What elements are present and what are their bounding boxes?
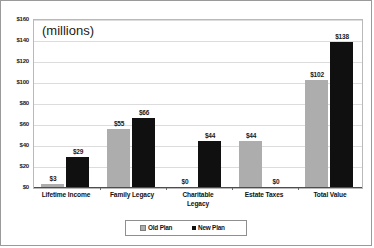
- legend-item-old-plan[interactable]: Old Plan: [140, 224, 172, 232]
- x-axis-category-label: CharitableLegacy: [165, 191, 231, 208]
- bar-new-plan[interactable]: [132, 118, 155, 187]
- x-axis-category-line: Legacy: [165, 200, 231, 209]
- y-axis-tick-label: $160: [1, 16, 29, 23]
- y-axis-tick-label: $120: [1, 58, 29, 65]
- bar-value-label: $0: [256, 178, 296, 186]
- x-axis-category-line: Total Value: [297, 191, 363, 200]
- y-axis-tick-label: $80: [1, 100, 29, 107]
- x-axis-category-label: Lifetime Income: [33, 191, 99, 200]
- x-axis-category-label: Family Legacy: [99, 191, 165, 200]
- legend-swatch-icon-old-plan: [140, 225, 146, 231]
- bar-old-plan[interactable]: [305, 80, 328, 187]
- legend-label-new-plan: New Plan: [198, 224, 225, 232]
- bar-value-label: $138: [322, 33, 362, 41]
- y-axis-tick-label: $60: [1, 121, 29, 128]
- bar-group: $3$29: [34, 19, 100, 187]
- bar-group: $0$44: [166, 19, 232, 187]
- x-axis: Lifetime IncomeFamily LegacyCharitableLe…: [33, 191, 363, 215]
- y-axis-tick-label: $40: [1, 142, 29, 149]
- x-axis-category-line: Charitable: [165, 191, 231, 200]
- y-axis-tick-label: $0: [1, 184, 29, 191]
- chart-frame: $160$140$120$100$80$60$40$20$0 (millions…: [0, 0, 372, 246]
- bar-group: $102$138: [298, 19, 364, 187]
- bar-value-label: $29: [58, 148, 98, 156]
- legend-swatch-icon-new-plan: [192, 226, 196, 230]
- y-axis-tick-label: $20: [1, 163, 29, 170]
- bar-old-plan[interactable]: [107, 129, 130, 187]
- legend-label-old-plan: Old Plan: [148, 224, 172, 232]
- legend-item-new-plan[interactable]: New Plan: [192, 224, 225, 232]
- x-axis-category-label: Estate Taxes: [231, 191, 297, 200]
- bar-value-label: $66: [124, 109, 164, 117]
- bar-new-plan[interactable]: [330, 42, 353, 187]
- bar-value-label: $44: [190, 132, 230, 140]
- bar-group: $44$0: [232, 19, 298, 187]
- x-axis-baseline: [34, 187, 362, 188]
- x-axis-category-line: Family Legacy: [99, 191, 165, 200]
- bar-group: $55$66: [100, 19, 166, 187]
- x-axis-category-label: Total Value: [297, 191, 363, 200]
- bars-layer: $3$29$55$66$0$44$44$0$102$138: [34, 20, 362, 188]
- bar-value-label: $44: [231, 132, 271, 140]
- y-axis-tick-label: $100: [1, 79, 29, 86]
- plot-area: (millions) $3$29$55$66$0$44$44$0$102$138: [33, 19, 363, 189]
- y-axis-tick-label: $140: [1, 37, 29, 44]
- bar-new-plan[interactable]: [66, 157, 89, 187]
- bar-new-plan[interactable]: [198, 141, 221, 187]
- x-axis-category-line: Estate Taxes: [231, 191, 297, 200]
- y-axis: $160$140$120$100$80$60$40$20$0: [1, 19, 31, 189]
- chart-legend: Old Plan New Plan: [125, 220, 247, 236]
- x-axis-category-line: Lifetime Income: [33, 191, 99, 200]
